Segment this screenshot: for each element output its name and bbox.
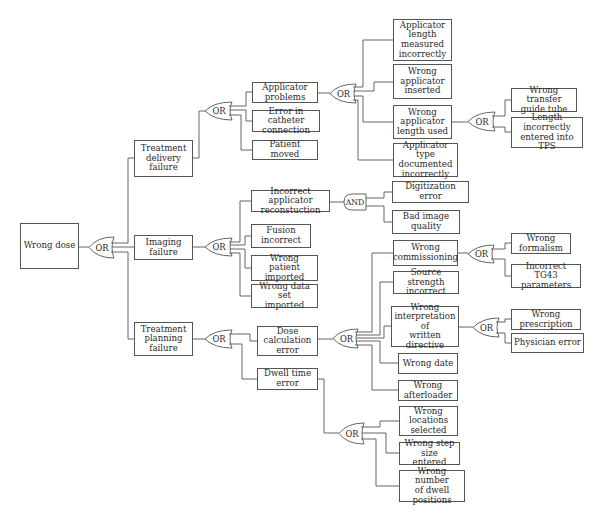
node-wrong-transfer-guide-tube: Wrong transfer guide tube [511, 88, 577, 112]
node-wrong-prescription: Wrong prescription [511, 309, 581, 330]
node-imaging-failure: Imaging failure [134, 235, 193, 260]
node-wrong-applicator-length-used: Wrong applicator length used [393, 105, 452, 139]
node-source-strength-incorrect: Source strength incorrect [393, 271, 459, 294]
fault-tree-diagram: OR OR OR OR OR AND OR OR OR OR OR Wrong … [0, 0, 600, 521]
node-wrong-afterloader: Wrong afterloader [398, 380, 458, 401]
node-wrong-patient-imported: Wrong patient imported [251, 255, 318, 281]
node-patient-moved: Patient moved [252, 140, 318, 160]
node-wrong-dose: Wrong dose [20, 223, 79, 269]
node-dwell-time-error: Dwell time error [257, 368, 318, 390]
node-treatment-planning-failure: Treatment planning failure [134, 322, 193, 356]
node-wrong-data-set-imported: Wrong data set imported [251, 284, 318, 308]
and-gate-reconstruction: AND [344, 194, 366, 210]
node-digitization-error: Digitization error [392, 181, 469, 203]
node-dose-calculation-error: Dose calculation error [257, 326, 318, 356]
node-wrong-number-dwell-positions: Wrong number of dwell positions [399, 470, 465, 502]
node-applicator-length-measured: Applicator length measured incorrectly [393, 19, 452, 61]
node-wrong-locations-selected: Wrong locations selected [399, 406, 458, 436]
node-wrong-interpretation: Wrong interpretation of written directiv… [391, 306, 459, 347]
or-gate-root: OR [91, 239, 113, 256]
or-gate-interpretation: OR [475, 319, 498, 336]
or-gate-dwell: OR [341, 425, 363, 442]
node-wrong-applicator-inserted: Wrong applicator inserted [393, 64, 452, 99]
node-applicator-type-documented: Applicator type documented incorrectly [393, 143, 458, 177]
or-gate-dose-calc: OR [335, 330, 358, 347]
node-wrong-commissioning: Wrong commissioning [393, 240, 458, 266]
node-physician-error: Physician error [511, 333, 584, 353]
node-bad-image-quality: Bad image quality [392, 210, 460, 234]
node-wrong-date: Wrong date [398, 353, 458, 374]
or-gate-commissioning: OR [470, 246, 493, 262]
node-treatment-delivery-failure: Treatment delivery failure [134, 140, 193, 177]
node-incorrect-tg43-parameters: Incorrect TG43 parameters [511, 264, 581, 288]
node-applicator-problems: Applicator problems [252, 82, 318, 103]
or-gate-applicator: OR [332, 85, 355, 102]
or-gate-length-used: OR [470, 113, 494, 130]
or-gate-planning: OR [207, 331, 231, 347]
node-wrong-formalism: Wrong formalism [511, 233, 571, 254]
node-wrong-step-size-entered: Wrong step size entered [399, 442, 460, 465]
node-fusion-incorrect: Fusion incorrect [251, 224, 311, 248]
or-gate-delivery: OR [207, 103, 231, 119]
node-incorrect-applicator-reconstruction: Incorrect applicator reconstuction [251, 190, 330, 212]
or-gate-imaging: OR [207, 239, 231, 255]
node-error-catheter-connection: Error in catheter connection [252, 110, 320, 132]
node-length-incorrectly-entered: Length incorrectly entered into TPS [511, 117, 583, 148]
